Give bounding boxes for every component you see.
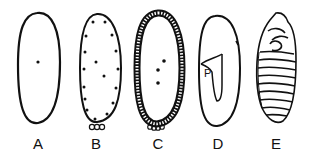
label-c: C — [148, 135, 168, 152]
panel-a-egg — [18, 13, 60, 123]
panel-d-annotation: P — [204, 67, 211, 79]
label-d: D — [208, 135, 228, 152]
panel-e-segmented — [257, 13, 296, 123]
panel-c-blastoderm — [137, 13, 182, 130]
label-e: E — [266, 135, 286, 152]
panel-b-egg — [80, 14, 121, 130]
label-a: A — [28, 135, 48, 152]
label-b: B — [86, 135, 106, 152]
